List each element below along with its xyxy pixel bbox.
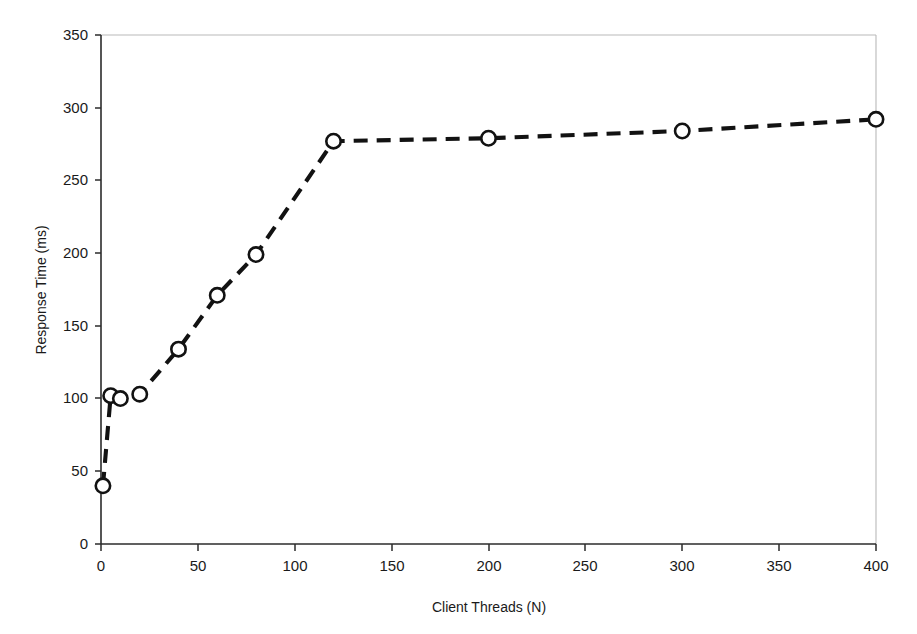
chart-background	[0, 0, 917, 634]
y-tick-label: 0	[80, 535, 88, 552]
y-tick-label: 100	[63, 389, 88, 406]
data-point-marker	[96, 479, 110, 493]
x-tick-label: 50	[190, 557, 207, 574]
y-tick-label: 200	[63, 244, 88, 261]
data-point-marker	[481, 131, 495, 145]
data-point-marker	[869, 112, 883, 126]
x-tick-label: 200	[476, 557, 501, 574]
data-point-marker	[675, 124, 689, 138]
x-tick-label: 150	[379, 557, 404, 574]
data-point-marker	[171, 342, 185, 356]
x-tick-label: 100	[282, 557, 307, 574]
y-axis-title: Response Time (ms)	[33, 225, 49, 354]
y-tick-label: 350	[63, 26, 88, 43]
y-tick-label: 150	[63, 317, 88, 334]
data-point-marker	[326, 134, 340, 148]
x-tick-label: 250	[572, 557, 597, 574]
x-tick-label: 0	[97, 557, 105, 574]
data-point-marker	[133, 387, 147, 401]
x-tick-label: 350	[766, 557, 791, 574]
x-tick-label: 400	[863, 557, 888, 574]
y-tick-label: 50	[71, 462, 88, 479]
x-tick-label: 300	[669, 557, 694, 574]
response-time-chart: 0 50 100 150 200 250 300 350 0 50 100 1	[0, 0, 917, 634]
data-point-marker	[210, 288, 224, 302]
y-tick-label: 250	[63, 171, 88, 188]
data-point-marker	[113, 391, 127, 405]
y-tick-label: 300	[63, 99, 88, 116]
chart-canvas: 0 50 100 150 200 250 300 350 0 50 100 1	[0, 0, 917, 634]
data-point-marker	[249, 247, 263, 261]
x-axis-title: Client Threads (N)	[432, 599, 546, 615]
